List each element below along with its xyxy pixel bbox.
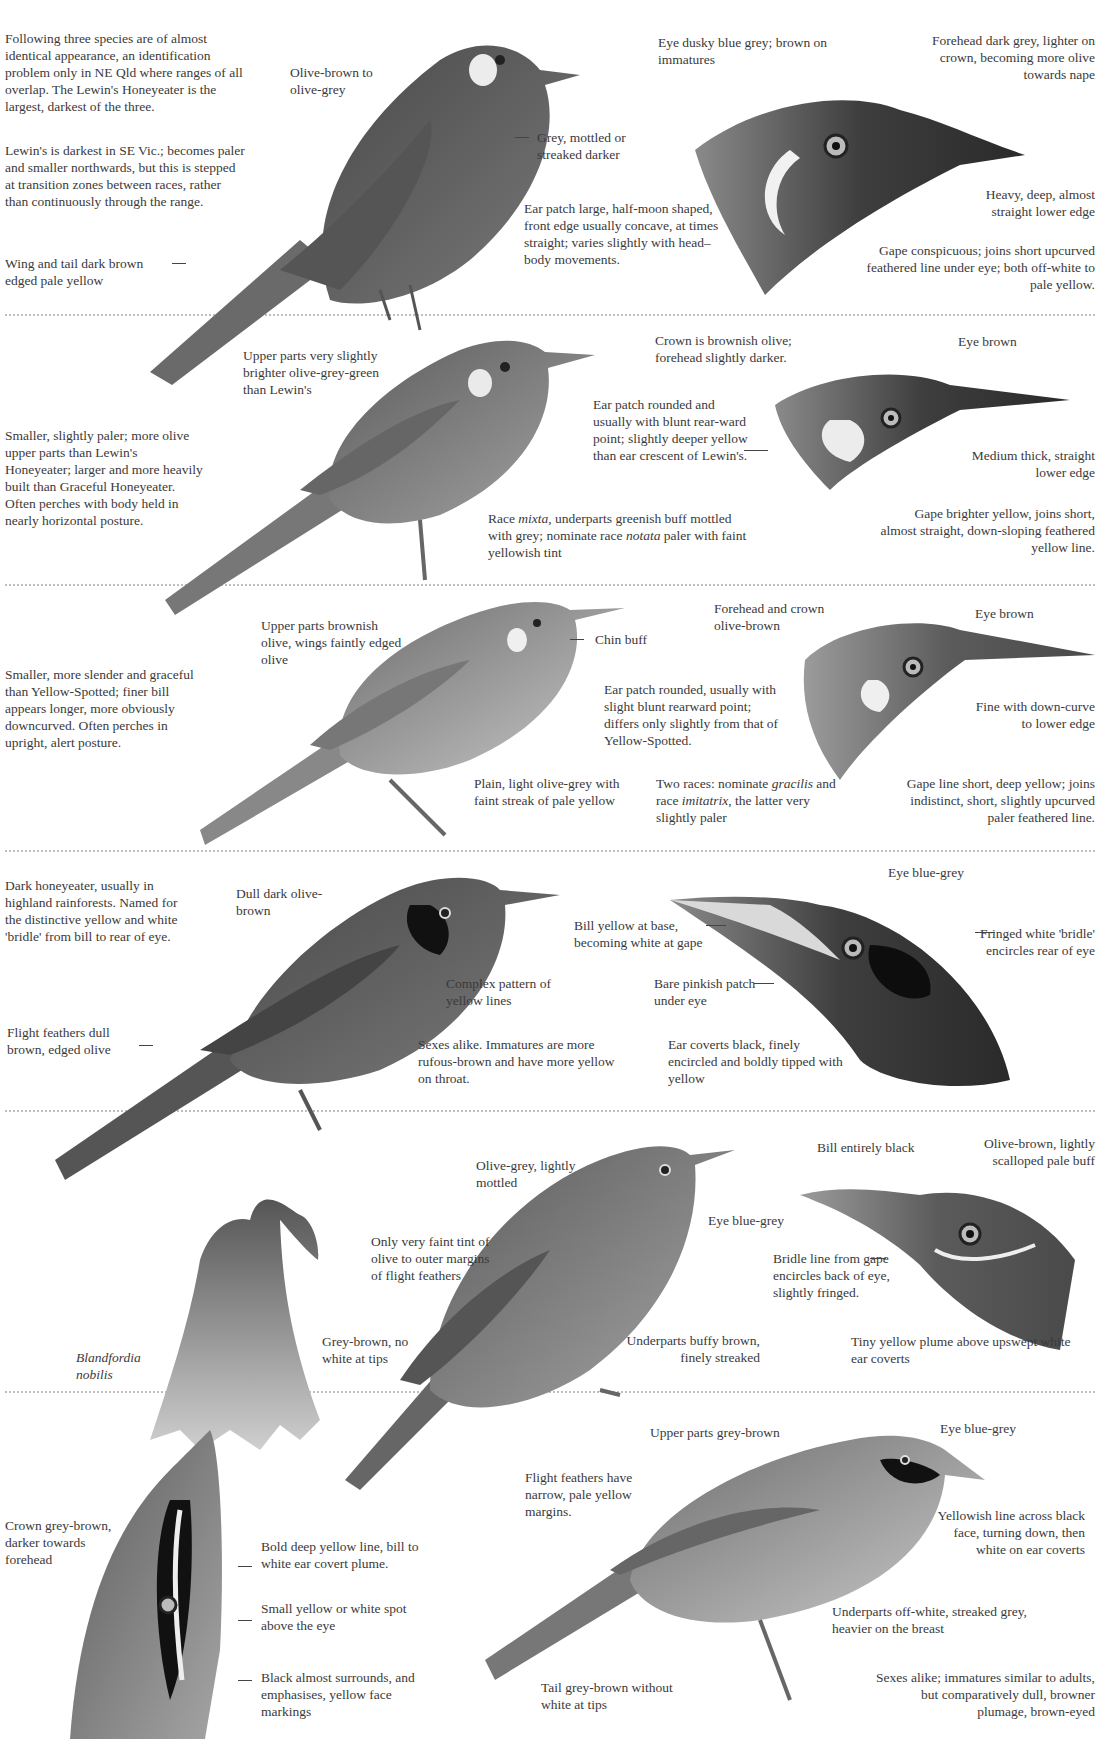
annotation-forehead: Forehead and crown olive-brown [714,600,854,634]
annotation-flight-feathers: Flight feathers have narrow, pale yellow… [525,1469,660,1520]
annotation-crown: Olive-brown, lightly scalloped pale buff [945,1135,1095,1169]
annotation-bill: Bill entirely black [817,1139,947,1156]
species-description: Smaller, slightly paler; more olive uppe… [5,427,205,529]
annotation-upperparts: Dull dark olive-brown [236,885,326,919]
annotation-eye: Eye dusky blue grey; brown on immatures [658,34,848,68]
annotation-mantle: Olive-grey, lightly mottled [476,1157,596,1191]
annotation-ear-coverts: Ear coverts black, finely encircled and … [668,1036,843,1087]
annotation-sexes: Sexes alike; immatures similar to adults… [870,1669,1095,1720]
annotation-tail: Tail grey-brown without white at tips [541,1679,691,1713]
annotation-underparts: Plain, light olive-grey with faint strea… [474,775,624,809]
leader-line [139,1045,153,1046]
annotation-eye: Eye blue-grey [708,1212,818,1229]
species-description: Dark honeyeater, usually in highland rai… [5,877,190,945]
annotation-bill: Bill yellow at base, becoming white at g… [574,917,734,951]
leader-line [515,137,529,138]
annotation-eye: Eye brown [958,333,1058,350]
annotation-sexes: Sexes alike. Immatures are more rufous-b… [418,1036,618,1087]
annotation-upperparts: Olive-brown to olive-grey [290,64,405,98]
annotation-yellow-line: Bold deep yellow line, bill to white ear… [261,1538,446,1572]
plant-label: Blandfordia nobilis [76,1349,166,1383]
leader-line [238,1566,252,1567]
leader-line [706,925,726,926]
annotation-ear-patch: Ear patch rounded, usually with slight b… [604,681,784,749]
annotation-tail: Grey-brown, no white at tips [322,1333,427,1367]
annotation-crown: Crown grey-brown, darker towards forehea… [5,1517,135,1568]
annotation-gape: Gape conspicuous; joins short upcurved f… [855,242,1095,293]
annotation-chin: Chin buff [595,631,695,648]
annotation-eye: Eye blue-grey [888,864,998,881]
annotation-underparts: Race mixta, underparts greenish buff mot… [488,510,758,561]
leader-line [754,983,774,984]
annotation-gape: Gape line short, deep yellow; joins indi… [880,775,1095,826]
annotation-eye: Eye brown [975,605,1075,622]
annotation-underparts: Underparts buffy brown, finely streaked [600,1332,760,1366]
annotation-eye: Eye blue-grey [940,1420,1050,1437]
annotation-underparts: Grey, mottled or streaked darker [537,129,657,163]
annotation-ear-patch: Ear patch rounded and usually with blunt… [593,396,753,464]
annotation-face-line: Yellowish line across black face, turnin… [930,1507,1085,1558]
annotation-ear-patch: Ear patch large, half-moon shaped, front… [524,200,724,268]
annotation-bill: Fine with down-curve to lower edge [965,698,1095,732]
leader-line [238,1680,252,1681]
annotation-flight-feathers: Flight feathers dull brown, edged olive [7,1024,142,1058]
leader-line [870,1258,886,1259]
annotation-races: Two races: nominate gracilis and race im… [656,775,846,826]
annotation-forehead: Forehead dark grey, lighter on crown, be… [905,32,1095,83]
blandfordia-flower [150,1200,320,1450]
annotation-bill: Medium thick, straight lower edge [955,447,1095,481]
annotation-wing-tail: Wing and tail dark brown edged pale yell… [5,255,175,289]
upturned-honeyeater-head [70,1430,222,1739]
annotation-underparts: Underparts off-white, streaked grey, hea… [832,1603,1032,1637]
leader-line [172,263,186,264]
annotation-plume: Tiny yellow plume above upswept white ea… [851,1333,1081,1367]
variation-note: Lewin's is darkest in SE Vic.; becomes p… [5,142,245,210]
annotation-bridle: Fringed white 'bridle' encircles rear of… [975,925,1095,959]
annotation-upperparts: Upper parts very slightly brighter olive… [243,347,403,398]
leader-line [570,639,584,640]
annotation-bill: Heavy, deep, almost straight lower edge [945,186,1095,220]
annotation-face: Complex pattern of yellow lines [446,975,576,1009]
annotation-eye-spot: Small yellow or white spot above the eye [261,1600,411,1634]
annotation-gape: Gape brighter yellow, joins short, almos… [880,505,1095,556]
intro-text: Following three species are of almost id… [5,30,250,115]
annotation-crown: Crown is brownish olive; forehead slight… [655,332,825,366]
leader-line [238,1620,252,1621]
annotation-flight-feathers: Only very faint tint of olive to outer m… [371,1233,496,1284]
leader-line [975,932,995,933]
species-description: Smaller, more slender and graceful than … [5,666,205,751]
annotation-upperparts: Upper parts brownish olive, wings faintl… [261,617,411,668]
annotation-black-face: Black almost surrounds, and emphasises, … [261,1669,431,1720]
annotation-bridle: Bridle line from gape encircles back of … [773,1250,918,1301]
annotation-bare-patch: Bare pinkish patch under eye [654,975,764,1009]
annotation-upperparts: Upper parts grey-brown [650,1424,820,1441]
leader-line [744,450,768,451]
